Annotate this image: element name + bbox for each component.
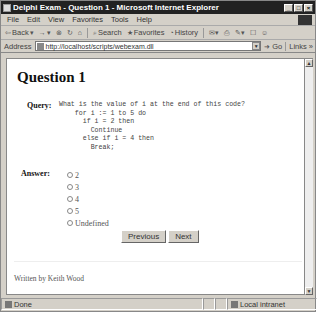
links-button[interactable]: Links » bbox=[285, 42, 315, 51]
mail-button[interactable]: ✉▾ bbox=[209, 29, 219, 37]
radio-button[interactable] bbox=[67, 196, 73, 202]
maximize-button[interactable]: □ bbox=[294, 4, 303, 12]
menu-file[interactable]: File bbox=[7, 15, 19, 24]
radio-button[interactable] bbox=[67, 208, 73, 214]
next-button[interactable]: Next bbox=[168, 230, 198, 243]
address-bar: Address http://localhost/scripts/webexam… bbox=[1, 40, 315, 53]
scroll-up-button[interactable]: ▲ bbox=[305, 59, 313, 67]
title-bar: Delphi Exam - Question 1 - Microsoft Int… bbox=[1, 1, 315, 14]
status-bar: Done Local intranet bbox=[1, 297, 317, 311]
zone-text: Local intranet bbox=[240, 300, 285, 309]
answer-options: 2 3 4 5 Undefined bbox=[67, 169, 109, 229]
status-pane bbox=[215, 298, 227, 310]
answer-option-undefined[interactable]: Undefined bbox=[67, 217, 109, 229]
menu-view[interactable]: View bbox=[48, 15, 64, 24]
answer-option-3[interactable]: 3 bbox=[67, 181, 109, 193]
standard-toolbar: ⇦ Back ▾ → ▾ ⊗ ↻ ⌂ ⌕ Search ★ Favorites … bbox=[1, 26, 315, 40]
print-button[interactable]: ⎙ bbox=[224, 29, 230, 37]
back-button[interactable]: ⇦ Back ▾ bbox=[5, 28, 34, 37]
toolbar-separator bbox=[87, 28, 88, 38]
menu-tools[interactable]: Tools bbox=[111, 15, 129, 24]
menu-help[interactable]: Help bbox=[137, 15, 152, 24]
radio-button[interactable] bbox=[67, 184, 73, 190]
edit-button[interactable]: ✎▾ bbox=[235, 29, 245, 37]
status-main: Done bbox=[1, 298, 203, 310]
scroll-down-button[interactable]: ▼ bbox=[305, 287, 313, 295]
forward-arrow-icon: → bbox=[39, 29, 46, 36]
footer-credit: Written by Keith Wood bbox=[14, 274, 84, 283]
refresh-button[interactable]: ↻ bbox=[67, 29, 73, 37]
answer-option-5[interactable]: 5 bbox=[67, 205, 109, 217]
favorites-icon: ★ bbox=[127, 29, 133, 37]
search-button[interactable]: ⌕ Search bbox=[93, 28, 122, 37]
page-title: Question 1 bbox=[17, 69, 86, 86]
intranet-icon bbox=[231, 301, 238, 308]
horizontal-rule bbox=[14, 261, 302, 262]
answer-option-2[interactable]: 2 bbox=[67, 169, 109, 181]
go-button[interactable]: ➜ Go bbox=[264, 42, 282, 51]
history-icon: ◔ bbox=[170, 29, 174, 36]
search-icon: ⌕ bbox=[93, 29, 97, 37]
home-button[interactable]: ⌂ bbox=[78, 29, 82, 36]
menu-favorites[interactable]: Favorites bbox=[72, 15, 103, 24]
menu-edit[interactable]: Edit bbox=[27, 15, 40, 24]
discuss-button[interactable]: ☐ bbox=[250, 29, 256, 37]
answer-label: Answer: bbox=[21, 169, 50, 178]
forward-button[interactable]: → ▾ bbox=[39, 29, 51, 37]
navigation-buttons: Previous Next bbox=[121, 230, 199, 243]
vertical-scrollbar[interactable]: ▲ ▼ bbox=[305, 58, 313, 295]
dropdown-icon: ▾ bbox=[30, 29, 34, 37]
menu-bar: File Edit View Favorites Tools Help bbox=[1, 14, 315, 26]
status-pane bbox=[203, 298, 215, 310]
back-arrow-icon: ⇦ bbox=[5, 29, 11, 37]
windows-logo-throbber bbox=[298, 15, 312, 25]
query-label: Query: bbox=[27, 101, 51, 110]
dropdown-icon: ▾ bbox=[47, 29, 51, 37]
address-dropdown-button[interactable]: ▼ bbox=[252, 42, 260, 50]
address-input[interactable]: http://localhost/scripts/webexam.dll ▼ bbox=[35, 41, 262, 51]
messenger-button[interactable]: ☺ bbox=[261, 29, 268, 36]
go-arrow-icon: ➜ bbox=[264, 43, 270, 50]
ie-app-icon bbox=[3, 4, 11, 12]
radio-button[interactable] bbox=[67, 220, 73, 226]
minimize-button[interactable]: _ bbox=[284, 4, 293, 12]
page-icon bbox=[37, 43, 44, 50]
favorites-button[interactable]: ★ Favorites bbox=[127, 28, 165, 37]
history-button[interactable]: ◔ History bbox=[170, 28, 199, 37]
close-button[interactable]: × bbox=[304, 4, 313, 12]
query-code: What is the value of i at the end of thi… bbox=[59, 101, 245, 153]
page-done-icon bbox=[5, 301, 12, 308]
stop-button[interactable]: ⊗ bbox=[56, 29, 62, 37]
page-content: Question 1 Query: What is the value of i… bbox=[6, 58, 305, 295]
status-text: Done bbox=[14, 300, 32, 309]
address-label: Address bbox=[4, 42, 32, 51]
answer-option-4[interactable]: 4 bbox=[67, 193, 109, 205]
security-zone: Local intranet bbox=[227, 298, 317, 310]
toolbar-separator bbox=[203, 28, 204, 38]
address-url: http://localhost/scripts/webexam.dll bbox=[46, 43, 253, 50]
browser-window: Delphi Exam - Question 1 - Microsoft Int… bbox=[0, 0, 316, 312]
window-title: Delphi Exam - Question 1 - Microsoft Int… bbox=[13, 3, 284, 12]
previous-button[interactable]: Previous bbox=[121, 230, 166, 243]
radio-button[interactable] bbox=[67, 172, 73, 178]
